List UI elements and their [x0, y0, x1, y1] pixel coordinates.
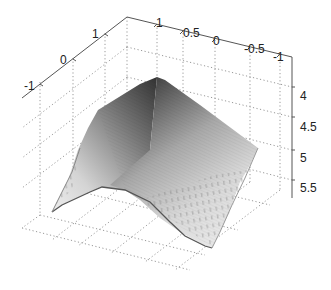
x-tick-labels: -1 0 1 [24, 27, 99, 93]
y-tick-label: -1 [273, 50, 284, 64]
surface [52, 77, 258, 248]
z-tick-label: 5 [300, 151, 307, 165]
z-tick-label: 4 [300, 89, 307, 103]
z-tick-label: 5.5 [300, 181, 317, 195]
y-tick-label: 0 [213, 34, 220, 48]
z-tick-label: 4.5 [300, 120, 317, 134]
y-axis-line [127, 17, 292, 57]
x-tick-label: 1 [92, 27, 99, 41]
y-tick-label: 0.5 [183, 26, 200, 40]
y-tick-label: -0.5 [244, 42, 265, 56]
x-tick-label: -1 [24, 79, 35, 93]
x-axis-line [22, 17, 127, 98]
x-tick-label: 0 [60, 53, 67, 67]
z-tick-labels: 4 4.5 5 5.5 [300, 89, 317, 195]
surface-plot: -1 0 1 1 0.5 0 -0.5 -1 4 4.5 5 5.5 [0, 0, 331, 290]
y-tick-label: 1 [156, 16, 163, 30]
